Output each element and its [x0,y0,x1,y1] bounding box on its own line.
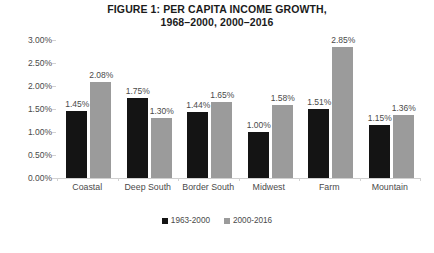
legend-item[interactable]: 2000-2016 [224,216,272,225]
legend-label: 2000-2016 [233,216,272,225]
bar-group: 1.51%2.85% [304,40,354,178]
bar[interactable] [187,112,208,178]
legend-swatch-icon [224,218,230,224]
bar[interactable] [248,132,269,178]
bar-value-label: 1.75% [115,86,161,96]
bar[interactable] [332,47,353,178]
y-axis-tickmark [52,155,56,156]
x-axis-tickmark [360,178,361,181]
bar-value-label: 1.36% [381,103,427,113]
y-axis-tickmark [52,63,56,64]
bar[interactable] [151,118,172,178]
bar[interactable] [369,125,390,178]
y-axis-labels: 0.00%0.50%1.00%1.50%2.00%2.50%3.00% [8,40,52,178]
bar-value-label: 2.85% [320,35,366,45]
x-axis-tickmark [57,178,58,181]
chart-title: FIGURE 1: PER CAPITA INCOME GROWTH, 1968… [0,3,434,29]
bar[interactable] [211,102,232,178]
y-axis-tick-label: 1.00% [8,127,52,137]
y-axis-tick-label: 3.00% [8,35,52,45]
bar[interactable] [308,109,329,178]
legend-item[interactable]: 1963-2000 [162,216,210,225]
x-axis-tickmark [299,178,300,181]
chart-legend: 1963-20002000-2016 [0,216,434,225]
x-axis-category-label: Mountain [360,182,421,192]
x-axis-labels: CoastalDeep SouthBorder SouthMidwestFarm… [57,182,420,198]
chart-figure: FIGURE 1: PER CAPITA INCOME GROWTH, 1968… [0,0,434,253]
x-axis-tickmark [420,178,421,181]
bar[interactable] [393,115,414,178]
y-axis-tick-label: 0.50% [8,150,52,160]
x-axis-category-label: Border South [178,182,239,192]
legend-label: 1963-2000 [171,216,210,225]
y-axis-tick-label: 0.00% [8,173,52,183]
bar-value-label: 2.08% [78,70,124,80]
bar-value-label: 1.65% [199,90,245,100]
x-axis-category-label: Farm [299,182,360,192]
bar-group: 1.15%1.36% [365,40,415,178]
x-axis-tickmark [118,178,119,181]
bar[interactable] [90,82,111,178]
x-axis-category-label: Midwest [239,182,300,192]
y-axis-tickmark [52,86,56,87]
bar[interactable] [66,111,87,178]
x-axis-category-label: Coastal [57,182,118,192]
chart-title-line-1: FIGURE 1: PER CAPITA INCOME GROWTH, [0,3,434,16]
x-axis-category-label: Deep South [118,182,179,192]
y-axis-tickmark [52,40,56,41]
x-axis-tickmark [239,178,240,181]
bar[interactable] [272,105,293,178]
plot-area: 1.45%2.08%1.75%1.30%1.44%1.65%1.00%1.58%… [57,40,420,178]
bar-group: 1.75%1.30% [123,40,173,178]
x-axis-tickmark [178,178,179,181]
bar-group: 1.45%2.08% [62,40,112,178]
legend-swatch-icon [162,218,168,224]
y-axis-tickmark [52,132,56,133]
bar-group: 1.00%1.58% [244,40,294,178]
bar-group: 1.44%1.65% [183,40,233,178]
y-axis-tick-label: 2.00% [8,81,52,91]
y-axis-tick-label: 1.50% [8,104,52,114]
y-axis-tick-label: 2.50% [8,58,52,68]
chart-title-line-2: 1968–2000, 2000–2016 [0,16,434,29]
